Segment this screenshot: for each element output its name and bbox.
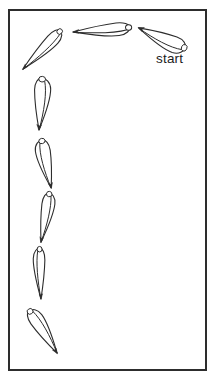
falling-seed-figure: start [0, 0, 215, 380]
start-label: start [156, 52, 200, 66]
